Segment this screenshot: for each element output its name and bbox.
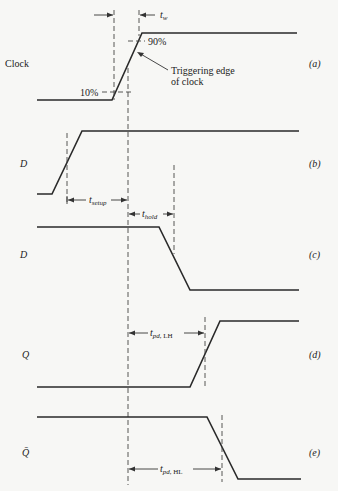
- signal-label-qbar: Q̄: [22, 447, 30, 458]
- pdhl-left-arrowhead: [129, 467, 135, 472]
- label-tpd-hl: tpd, HL: [160, 463, 183, 476]
- signal-label-d-c: D: [19, 249, 28, 260]
- setup-right-arrowhead: [121, 198, 127, 203]
- hold-left-arrowhead: [129, 212, 135, 217]
- tw-right-arrowhead: [140, 13, 146, 18]
- label-tpd-lh: tpd, LH: [150, 327, 173, 340]
- tw-left-arrowhead: [107, 13, 113, 18]
- signal-label-clock: Clock: [5, 58, 29, 69]
- trigger-pointer-line: [139, 53, 168, 70]
- q-waveform: [37, 321, 299, 387]
- hold-right-arrowhead: [167, 212, 173, 217]
- tag-e: (e): [309, 447, 321, 459]
- signal-label-d-b: D: [19, 158, 28, 169]
- label-90pct: 90%: [148, 36, 166, 47]
- pdlh-left-arrowhead: [129, 331, 135, 336]
- label-10pct: 10%: [80, 87, 98, 98]
- d-rising-waveform: [37, 131, 299, 194]
- tag-b: (b): [309, 158, 321, 170]
- timing-diagram: Clock D D Q Q̄ (a) (b) (c) (d) (e) 10% 9…: [0, 0, 338, 491]
- label-trigger-2: of clock: [171, 76, 204, 87]
- tag-d: (d): [309, 349, 321, 361]
- signal-label-q: Q: [22, 349, 30, 360]
- label-thold: thold: [142, 208, 158, 221]
- tag-c: (c): [309, 249, 321, 261]
- label-tw: tw: [160, 9, 168, 22]
- label-trigger-1: Triggering edge: [171, 65, 235, 76]
- clock-waveform: [37, 33, 297, 100]
- pdhl-right-arrowhead: [215, 467, 221, 472]
- setup-left-arrowhead: [68, 198, 74, 203]
- trigger-pointer-arrowhead: [137, 52, 144, 57]
- d-falling-waveform: [37, 227, 299, 290]
- pdlh-right-arrowhead: [198, 331, 204, 336]
- label-tsetup: tsetup: [89, 194, 107, 207]
- tag-a: (a): [309, 58, 321, 70]
